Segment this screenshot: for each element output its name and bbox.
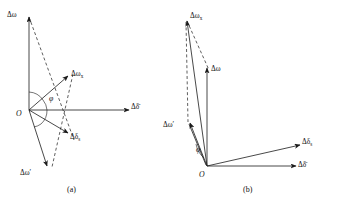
dashed-construction-b-2 [186, 22, 188, 122]
label-delta-omega-x-a: Δωx [71, 69, 84, 79]
label-delta-omega-x-a-sub: x [81, 73, 84, 79]
label-delta-omega-prime-b: Δω′ [163, 120, 175, 129]
label-delta-delta-s-a-sub: s [78, 136, 80, 142]
caption-panel-a: (a) [67, 185, 76, 194]
vector-diagram-figure: Δω Δωx Δδ̄ Δδs Δω′ O φ (a) [0, 0, 356, 205]
vector-delta-omega-prime-a [29, 110, 47, 166]
label-delta-delta-bar-b: Δδ̄ [298, 160, 308, 169]
label-delta-omega-x-a-main: Δω [71, 69, 81, 78]
angle-arc-a-lower [41, 110, 47, 124]
label-delta-delta-s-a: Δδs [70, 132, 80, 142]
label-delta-omega-x-b-main: Δω [190, 11, 200, 20]
label-origin-a: O [16, 109, 22, 118]
label-delta-omega-x-b-sub: x [200, 15, 203, 21]
panel-b: Δωx Δω Δω′ Δδs Δδ̄ O φ (b) [163, 11, 312, 194]
caption-panel-b: (b) [243, 185, 253, 194]
dashed-construction-a-1 [29, 17, 74, 140]
label-delta-omega-prime-a: Δω′ [20, 168, 32, 177]
label-delta-omega-x-b: Δωx [190, 11, 203, 21]
label-delta-delta-s-b-sub: s [310, 141, 312, 147]
label-delta-delta-s-b: Δδs [302, 137, 312, 147]
angle-arc-a-upper [29, 92, 43, 100]
label-delta-omega-top-a: Δω [7, 10, 17, 19]
label-angle-phi-b: φ [196, 145, 201, 154]
label-delta-omega-b: Δω [211, 64, 221, 73]
angle-arc-a-lowest [34, 124, 41, 127]
label-delta-delta-bar-a: Δδ̄ [131, 102, 141, 111]
label-origin-b: O [199, 170, 205, 179]
label-angle-phi-a: φ [49, 94, 54, 103]
panel-a: Δω Δωx Δδ̄ Δδs Δω′ O φ (a) [7, 10, 141, 194]
figure-svg: Δω Δωx Δδ̄ Δδs Δω′ O φ (a) [0, 0, 356, 205]
angle-arc-a-phi [43, 100, 47, 110]
vector-delta-delta-s-b [207, 145, 300, 166]
